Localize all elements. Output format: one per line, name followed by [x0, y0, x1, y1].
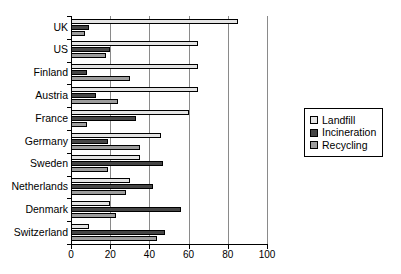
x-tick-label-80: 80 — [213, 250, 243, 260]
category-label-finland: Finland — [34, 67, 68, 78]
bar-incineration — [71, 184, 153, 189]
category-label-switzerland: Switzerland — [14, 227, 68, 238]
y-tick-mark — [67, 84, 71, 85]
bar-incineration — [71, 207, 181, 212]
y-tick-mark — [67, 62, 71, 63]
category-label-netherlands: Netherlands — [11, 181, 68, 192]
bar-recycling — [71, 53, 106, 58]
category-label-denmark: Denmark — [25, 204, 68, 215]
bar-recycling — [71, 122, 87, 127]
y-tick-mark — [67, 153, 71, 154]
category-label-us: US — [53, 44, 68, 55]
caption-strip — [0, 266, 401, 274]
bar-recycling — [71, 190, 126, 195]
legend-item-incineration: Incineration — [310, 127, 376, 138]
category-label-france: France — [35, 113, 68, 124]
legend-label-landfill: Landfill — [322, 115, 355, 126]
bar-landfill — [71, 110, 189, 115]
bar-incineration — [71, 230, 165, 235]
x-tick-label-60: 60 — [174, 250, 204, 260]
bar-landfill — [71, 87, 198, 92]
bar-incineration — [71, 70, 87, 75]
x-tick-label-40: 40 — [134, 250, 164, 260]
category-label-germany: Germany — [25, 136, 68, 147]
waste-treatment-bar-chart: 020406080100 UKUSFinlandAustriaFranceGer… — [0, 0, 401, 274]
y-tick-mark — [67, 39, 71, 40]
x-axis-line — [71, 244, 268, 245]
bar-landfill — [71, 19, 238, 24]
bar-landfill — [71, 64, 198, 69]
bar-landfill — [71, 224, 89, 229]
bar-incineration — [71, 139, 108, 144]
legend-label-recycling: Recycling — [322, 140, 368, 151]
legend: Landfill Incineration Recycling — [304, 108, 383, 157]
bar-recycling — [71, 145, 140, 150]
y-tick-mark — [67, 16, 71, 17]
x-tick-label-0: 0 — [56, 250, 86, 260]
legend-item-landfill: Landfill — [310, 115, 376, 126]
bar-landfill — [71, 133, 161, 138]
x-tick-label-20: 20 — [95, 250, 125, 260]
category-label-sweden: Sweden — [30, 158, 68, 169]
legend-swatch-landfill — [310, 116, 318, 124]
y-tick-mark — [67, 176, 71, 177]
legend-swatch-recycling — [310, 141, 318, 149]
y-tick-mark — [67, 130, 71, 131]
y-tick-mark — [67, 107, 71, 108]
bar-incineration — [71, 93, 96, 98]
bar-incineration — [71, 161, 163, 166]
x-tick-label-100: 100 — [252, 250, 282, 260]
bar-landfill — [71, 41, 198, 46]
bar-recycling — [71, 99, 118, 104]
bar-landfill — [71, 155, 140, 160]
y-tick-mark — [67, 244, 71, 245]
category-label-uk: UK — [53, 22, 68, 33]
bar-incineration — [71, 47, 110, 52]
bar-landfill — [71, 201, 110, 206]
legend-swatch-incineration — [310, 129, 318, 137]
y-tick-mark — [67, 221, 71, 222]
bar-incineration — [71, 116, 136, 121]
bar-recycling — [71, 76, 130, 81]
legend-label-incineration: Incineration — [322, 127, 376, 138]
bar-landfill — [71, 178, 130, 183]
legend-item-recycling: Recycling — [310, 140, 376, 151]
bar-recycling — [71, 236, 157, 241]
bar-recycling — [71, 31, 85, 36]
bar-recycling — [71, 213, 116, 218]
y-tick-mark — [67, 198, 71, 199]
bar-recycling — [71, 167, 108, 172]
bar-incineration — [71, 25, 89, 30]
category-label-austria: Austria — [35, 90, 68, 101]
